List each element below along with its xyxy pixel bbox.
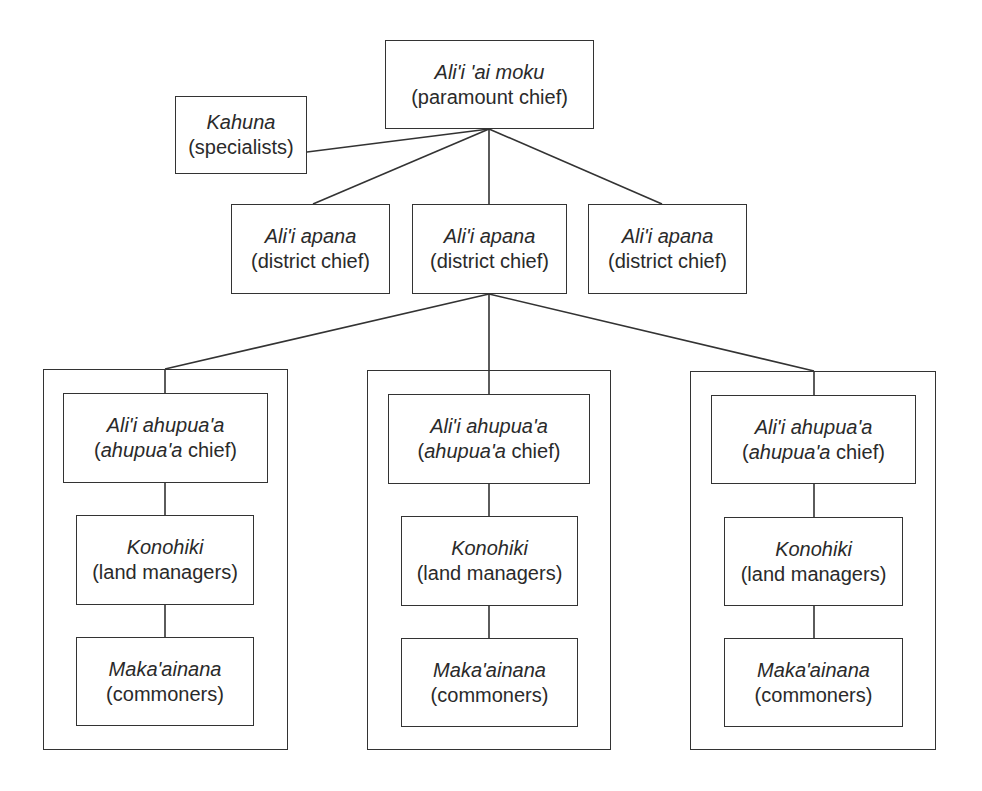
konohiki-name: Konohiki — [127, 535, 204, 560]
ahupuaa-chief-box-2: Ali'i ahupua'a (ahupua'a chief) — [388, 394, 590, 484]
konohiki-box-3: Konohiki (land managers) — [724, 517, 903, 606]
commoners-role: (commoners) — [106, 682, 224, 707]
district-chief-role: (district chief) — [430, 249, 549, 274]
kahuna-role: (specialists) — [188, 135, 294, 160]
paramount-chief-box: Ali'i 'ai moku (paramount chief) — [385, 40, 594, 129]
commoners-role: (commoners) — [431, 683, 549, 708]
commoners-name: Maka'ainana — [109, 657, 222, 682]
ahupuaa-chief-name: Ali'i ahupua'a — [755, 415, 873, 440]
commoners-box-3: Maka'ainana (commoners) — [724, 638, 903, 727]
district-chief-box-1: Ali'i apana (district chief) — [231, 204, 390, 294]
ahupuaa-chief-name: Ali'i ahupua'a — [107, 413, 225, 438]
district-chief-name: Ali'i apana — [622, 224, 714, 249]
paramount-chief-name: Ali'i 'ai moku — [435, 60, 545, 85]
ahupuaa-chief-role: (ahupua'a chief) — [742, 440, 885, 465]
ahupuaa-chief-role: (ahupua'a chief) — [418, 439, 561, 464]
konohiki-role: (land managers) — [92, 560, 238, 585]
konohiki-name: Konohiki — [451, 536, 528, 561]
konohiki-name: Konohiki — [775, 537, 852, 562]
district-chief-name: Ali'i apana — [265, 224, 357, 249]
ahupuaa-chief-box-3: Ali'i ahupua'a (ahupua'a chief) — [711, 395, 916, 484]
ahupuaa-chief-box-1: Ali'i ahupua'a (ahupua'a chief) — [63, 393, 268, 483]
kahuna-name: Kahuna — [207, 110, 276, 135]
konohiki-box-1: Konohiki (land managers) — [76, 515, 254, 605]
konohiki-role: (land managers) — [417, 561, 563, 586]
ahupuaa-chief-role: (ahupua'a chief) — [94, 438, 237, 463]
ahupuaa-chief-name: Ali'i ahupua'a — [430, 414, 548, 439]
district-chief-role: (district chief) — [251, 249, 370, 274]
commoners-name: Maka'ainana — [433, 658, 546, 683]
commoners-role: (commoners) — [755, 683, 873, 708]
district-chief-box-2: Ali'i apana (district chief) — [412, 204, 567, 294]
commoners-box-1: Maka'ainana (commoners) — [76, 637, 254, 726]
paramount-chief-role: (paramount chief) — [411, 85, 568, 110]
district-chief-name: Ali'i apana — [444, 224, 536, 249]
kahuna-box: Kahuna (specialists) — [175, 96, 307, 174]
commoners-box-2: Maka'ainana (commoners) — [401, 638, 578, 727]
district-chief-role: (district chief) — [608, 249, 727, 274]
konohiki-box-2: Konohiki (land managers) — [401, 516, 578, 606]
commoners-name: Maka'ainana — [757, 658, 870, 683]
konohiki-role: (land managers) — [741, 562, 887, 587]
district-chief-box-3: Ali'i apana (district chief) — [588, 204, 747, 294]
